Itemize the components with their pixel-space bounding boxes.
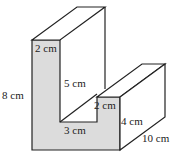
label-inner-height: 5 cm (64, 78, 86, 89)
l-prism-diagram: 2 cm 8 cm 5 cm 3 cm 2 cm 4 cm 10 cm (0, 0, 180, 155)
label-top-width: 2 cm (35, 43, 57, 54)
label-inner-width: 3 cm (64, 125, 86, 136)
inner-floor-edge (60, 94, 97, 122)
label-step-height: 4 cm (121, 116, 143, 127)
label-total-height: 8 cm (2, 90, 24, 101)
top-face-column (32, 7, 105, 40)
label-step-width: 2 cm (94, 100, 116, 111)
label-depth: 10 cm (142, 133, 169, 144)
